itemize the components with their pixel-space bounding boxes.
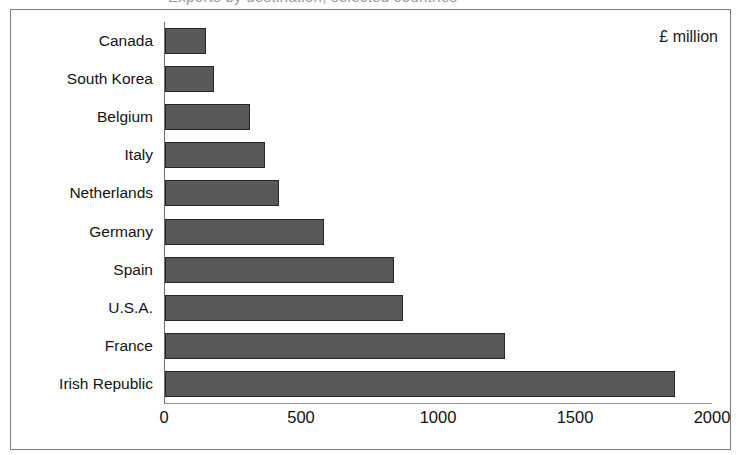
clipped-chart-title: Exports by destination, selected countri…	[168, 0, 457, 5]
bar-rect	[165, 219, 324, 245]
bar-netherlands	[165, 180, 279, 206]
bar-irish-republic	[165, 371, 675, 397]
category-label-belgium: Belgium	[11, 104, 153, 130]
bar-belgium	[165, 104, 250, 130]
category-label-spain: Spain	[11, 257, 153, 283]
bar-south-korea	[165, 66, 214, 92]
x-tick-label-1500: 1500	[557, 408, 594, 427]
bar-rect	[165, 257, 394, 283]
x-tick-label-500: 500	[287, 408, 315, 427]
value-axis-tick-labels: 0500100015002000	[164, 408, 724, 434]
bar-rect	[165, 333, 505, 359]
bar-rect	[165, 371, 675, 397]
plot-area	[164, 22, 712, 403]
category-label-germany: Germany	[11, 219, 153, 245]
bar-germany	[165, 219, 324, 245]
category-label-canada: Canada	[11, 28, 153, 54]
category-axis-line	[164, 403, 712, 404]
x-tick-label-0: 0	[159, 408, 168, 427]
bar-rect	[165, 104, 250, 130]
bar-rect	[165, 142, 265, 168]
bar-u-s-a	[165, 295, 403, 321]
category-label-u-s-a: U.S.A.	[11, 295, 153, 321]
category-label-irish-republic: Irish Republic	[11, 371, 153, 397]
bar-italy	[165, 142, 265, 168]
x-tick-label-2000: 2000	[694, 408, 731, 427]
bar-rect	[165, 180, 279, 206]
bar-rect	[165, 28, 206, 54]
bar-spain	[165, 257, 394, 283]
x-tick-label-1000: 1000	[420, 408, 457, 427]
bar-rect	[165, 66, 214, 92]
category-label-netherlands: Netherlands	[11, 180, 153, 206]
clipped-title-strip: Exports by destination, selected countri…	[0, 0, 739, 9]
bar-france	[165, 333, 505, 359]
category-label-france: France	[11, 333, 153, 359]
bar-canada	[165, 28, 206, 54]
category-label-italy: Italy	[11, 142, 153, 168]
category-label-south-korea: South Korea	[11, 66, 153, 92]
chart-frame: £ million CanadaSouth KoreaBelgiumItalyN…	[10, 9, 731, 450]
bar-rect	[165, 295, 403, 321]
